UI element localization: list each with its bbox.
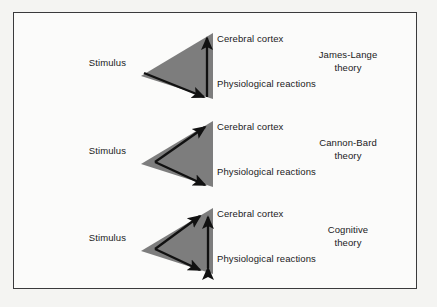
cerebral-cortex-line-1: Cerebral	[217, 121, 254, 132]
physiological-line-1: Physiological	[217, 253, 274, 264]
cerebral-cortex-label: Cerebral cortex	[217, 208, 283, 220]
cerebral-cortex-label: Cerebral cortex	[217, 33, 283, 45]
physiological-line-2: reactions	[277, 253, 316, 264]
theory-row-cannon-bard: Stimulus Cerebral cortex Physiological r…	[14, 109, 418, 199]
triangle-shape	[141, 208, 213, 274]
figure-frame: Stimulus Cerebral cortex Physiological r…	[13, 12, 417, 289]
cerebral-cortex-line-2: cortex	[257, 208, 283, 219]
stimulus-label: Stimulus	[48, 232, 126, 243]
theory-line-2: theory	[292, 237, 404, 250]
physiological-reactions-label: Physiological reactions	[217, 253, 316, 265]
cerebral-cortex-line-1: Cerebral	[217, 33, 254, 44]
theory-name-cannon-bard: Cannon-Bard theory	[292, 137, 404, 162]
theory-line-1: Cannon-Bard	[292, 137, 404, 150]
theory-name-james-lange: James-Lange theory	[292, 49, 404, 74]
theory-row-cognitive: Stimulus Cerebral cortex Physiological r…	[14, 196, 418, 286]
triangle-shape	[141, 33, 213, 99]
physiological-line-1: Physiological	[217, 166, 274, 177]
physiological-reactions-label: Physiological reactions	[217, 166, 316, 178]
theory-line-1: James-Lange	[292, 49, 404, 62]
cerebral-cortex-line-2: cortex	[257, 121, 283, 132]
theory-line-2: theory	[292, 62, 404, 75]
theory-name-cognitive: Cognitive theory	[292, 224, 404, 249]
physiological-line-2: reactions	[277, 166, 316, 177]
theory-line-2: theory	[292, 150, 404, 163]
triangle-shape	[141, 121, 213, 187]
physiological-reactions-label: Physiological reactions	[217, 78, 316, 90]
theory-line-1: Cognitive	[292, 224, 404, 237]
stimulus-label: Stimulus	[48, 57, 126, 68]
cerebral-cortex-line-2: cortex	[257, 33, 283, 44]
stimulus-label: Stimulus	[48, 145, 126, 156]
emotion-theories-figure: Stimulus Cerebral cortex Physiological r…	[0, 0, 437, 307]
theory-row-james-lange: Stimulus Cerebral cortex Physiological r…	[14, 21, 418, 111]
physiological-line-2: reactions	[277, 78, 316, 89]
cerebral-cortex-line-1: Cerebral	[217, 208, 254, 219]
physiological-line-1: Physiological	[217, 78, 274, 89]
cerebral-cortex-label: Cerebral cortex	[217, 121, 283, 133]
